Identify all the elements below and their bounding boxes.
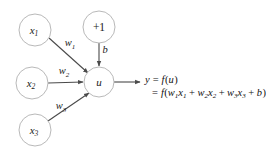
edge-x3-to-u	[48, 93, 89, 121]
weight-label-b: b	[102, 44, 107, 55]
neuron-diagram-canvas: x1 +1 x2 x3 u	[0, 0, 266, 156]
edge-x2-to-u	[48, 82, 83, 83]
output-equation-line1: y=f(u)	[144, 74, 178, 86]
weight-label-w2: w2	[59, 65, 70, 78]
weight-label-w1: w1	[65, 37, 76, 50]
node-x1[interactable]: x1	[19, 14, 51, 46]
node-bias[interactable]: +1	[83, 11, 115, 43]
node-x3[interactable]: x3	[19, 114, 51, 146]
node-group: x1 +1 x2 x3 u	[16, 11, 115, 146]
output-equation-group: y=f(u) =f(w1x1+w2x2+w3x3+b)	[144, 74, 266, 99]
weight-label-w3: w3	[56, 100, 67, 113]
output-equation-line2: =f(w1x1+w2x2+w3x3+b)	[152, 87, 266, 99]
neuron-diagram-svg: x1 +1 x2 x3 u	[0, 0, 266, 156]
node-bias-label: +1	[93, 21, 105, 33]
node-x2[interactable]: x2	[16, 67, 48, 99]
node-u-label: u	[96, 76, 102, 88]
node-u[interactable]: u	[84, 67, 114, 97]
